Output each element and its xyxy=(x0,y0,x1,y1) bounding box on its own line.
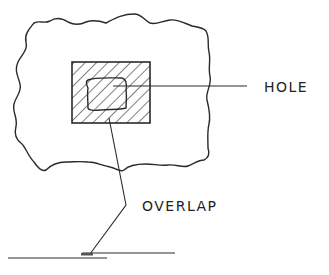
patch-overlap-diagram: HOLE OVERLAP xyxy=(0,0,329,275)
overlap-label: OVERLAP xyxy=(142,198,218,214)
overlap-leader-line xyxy=(90,118,126,254)
joint-overlap-mark xyxy=(81,253,93,256)
overlap-patch xyxy=(72,62,150,123)
hole-label: HOLE xyxy=(264,79,308,95)
